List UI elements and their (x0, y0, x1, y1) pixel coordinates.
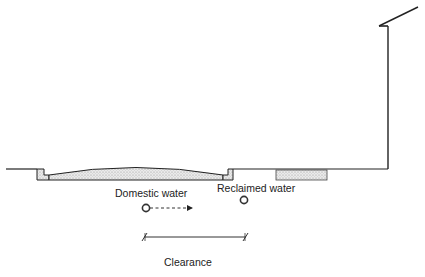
clearance-label: Clearance (164, 256, 212, 268)
building-wall (379, 7, 418, 169)
domestic-water-label: Domestic water (115, 187, 188, 199)
sidewalk-vault (276, 170, 327, 180)
roadway (49, 168, 223, 181)
reclaimed-water-pipe (240, 196, 247, 203)
reclaimed-water-label: Reclaimed water (217, 182, 296, 194)
right-curb (223, 169, 233, 180)
clearance-dimension (142, 233, 248, 241)
domestic-water-pipe (142, 204, 192, 211)
left-curb (37, 169, 49, 180)
cross-section-diagram: Domestic water Reclaimed water Clearance (0, 0, 425, 277)
